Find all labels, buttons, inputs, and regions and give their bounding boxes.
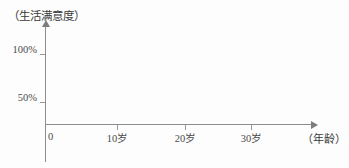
x-axis-arrow-icon [311,121,318,129]
x-tick-label-20: 20岁 [175,130,196,145]
x-tick-label-30: 30岁 [241,130,262,145]
chart-figure: （生活满意度） 100% 50% 10岁 20岁 30岁 0 （年龄） [0,0,349,168]
y-tick-label-100: 100% [9,44,37,55]
y-tick-label-50: 50% [9,92,37,103]
x-axis-caption: （年龄） [302,130,346,146]
y-tick-50 [40,102,45,103]
x-axis-line [45,124,312,125]
y-tick-100 [40,54,45,55]
plot-area [46,26,312,124]
origin-label: 0 [48,131,53,142]
x-tick-label-10: 10岁 [107,130,128,145]
